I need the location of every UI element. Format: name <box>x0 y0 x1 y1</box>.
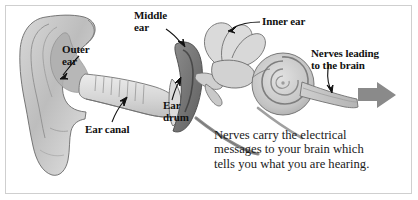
label-ear-drum: Ear drum <box>163 100 189 123</box>
figure-caption: Nerves carry the electrical messages to … <box>214 128 410 171</box>
label-middle-ear: Middle ear <box>134 10 167 33</box>
label-nerves-leading-to-brain: Nerves leading to the brain <box>311 48 379 71</box>
label-outer-ear: Outer ear <box>62 44 90 67</box>
ear-anatomy-figure: Outer ear Middle ear Inner ear Nerves le… <box>0 0 418 200</box>
ear-canal-tube <box>79 74 174 117</box>
right-arrow-to-brain <box>358 82 396 108</box>
label-ear-canal: Ear canal <box>85 124 129 136</box>
label-inner-ear: Inner ear <box>262 16 305 28</box>
